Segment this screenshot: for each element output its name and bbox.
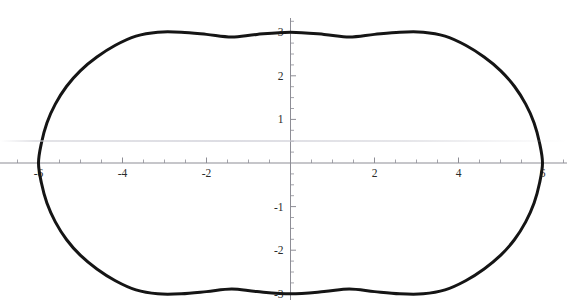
plot-figure: -6-4-2246 321-1-2-3 — [0, 0, 567, 300]
x-tick-label: -2 — [202, 167, 212, 179]
y-tick-label: 2 — [278, 70, 284, 82]
x-axis-tick-labels: -6-4-2246 — [34, 167, 546, 179]
y-tick-label: -1 — [274, 201, 284, 213]
y-axis-minor-ticks — [291, 21, 295, 283]
x-tick-label: 4 — [456, 167, 462, 179]
x-tick-label: 2 — [372, 167, 378, 179]
y-tick-label: 1 — [278, 113, 284, 125]
ellipse-plot-canvas: -6-4-2246 321-1-2-3 — [0, 0, 567, 300]
x-tick-label: -4 — [118, 167, 128, 179]
y-tick-label: -2 — [274, 244, 284, 256]
